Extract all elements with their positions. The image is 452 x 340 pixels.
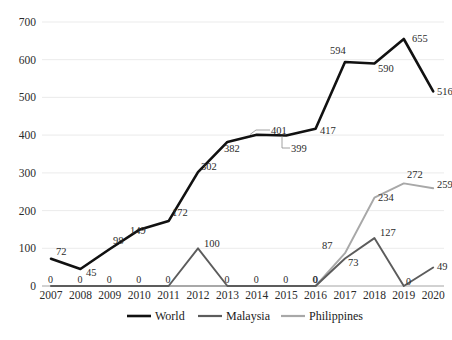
label-malaysia-2008: 0: [77, 274, 82, 285]
label-philippines-2018: 234: [378, 192, 395, 203]
x-tick-2020: 2020: [422, 289, 445, 301]
label-malaysia-2012: 100: [204, 238, 220, 249]
legend-label-philippines: Philippines: [309, 309, 363, 323]
label-world-2007: 72: [56, 246, 67, 257]
chart-legend: World Malaysia Philippines: [127, 309, 363, 323]
y-tick-300: 300: [19, 167, 37, 179]
x-tick-2015: 2015: [275, 289, 298, 301]
y-tick-700: 700: [19, 16, 37, 28]
label-malaysia-2014: 0: [254, 274, 259, 285]
y-tick-0: 0: [30, 280, 36, 292]
label-world-2020: 516: [437, 86, 452, 97]
x-tick-2014: 2014: [245, 289, 268, 301]
label-world-2017: 594: [330, 45, 347, 56]
x-tick-2010: 2010: [128, 289, 151, 301]
x-tick-2008: 2008: [69, 289, 92, 301]
label-malaysia-2011: 0: [166, 274, 171, 285]
y-tick-600: 600: [19, 54, 37, 66]
label-philippines-2017: 87: [322, 240, 333, 251]
x-tick-2018: 2018: [363, 289, 386, 301]
label-malaysia-2020: 49: [437, 261, 448, 272]
x-tick-2012: 2012: [187, 289, 210, 301]
y-tick-500: 500: [19, 91, 37, 103]
label-world-2012: 302: [201, 161, 217, 172]
chart-canvas: 700 600 500 400 300 200 100 0 2007 2008 …: [0, 0, 452, 340]
x-tick-2017: 2017: [334, 289, 357, 301]
y-tick-200: 200: [19, 205, 37, 217]
x-tick-2009: 2009: [98, 289, 121, 301]
label-malaysia-2015: 0: [283, 274, 288, 285]
x-tick-2016: 2016: [304, 289, 327, 301]
x-tick-2013: 2013: [216, 289, 239, 301]
label-malaysia-2019: 0: [406, 276, 411, 287]
label-world-2014: 401: [271, 125, 287, 136]
label-malaysia-2007: 0: [48, 274, 53, 285]
label-world-2019: 655: [412, 33, 428, 44]
label-philippines-2019: 272: [407, 169, 423, 180]
legend-label-world: World: [155, 309, 185, 323]
label-malaysia-2010: 0: [136, 274, 141, 285]
x-tick-2011: 2011: [157, 289, 180, 301]
label-philippines-2016: 0: [313, 274, 318, 285]
label-malaysia-2009: 0: [107, 274, 112, 285]
legend-label-malaysia: Malaysia: [226, 309, 271, 323]
label-malaysia-2018: 127: [380, 227, 396, 238]
label-world-2015: 399: [291, 143, 307, 154]
label-malaysia-2017: 73: [348, 257, 359, 268]
label-malaysia-2013: 0: [224, 274, 229, 285]
label-world-2008: 45: [86, 267, 97, 278]
label-world-2011: 172: [172, 207, 188, 218]
line-chart: 700 600 500 400 300 200 100 0 2007 2008 …: [0, 0, 452, 340]
y-tick-400: 400: [19, 129, 37, 141]
x-tick-2007: 2007: [40, 289, 63, 301]
x-tick-2019: 2019: [392, 289, 415, 301]
label-philippines-2020: 259: [437, 179, 452, 190]
label-world-2010: 149: [130, 225, 146, 236]
label-world-2016: 417: [320, 125, 336, 136]
label-world-2009: 98: [113, 235, 124, 246]
y-tick-100: 100: [19, 242, 37, 254]
label-world-2018: 590: [378, 63, 394, 74]
label-world-2013: 382: [224, 143, 240, 154]
